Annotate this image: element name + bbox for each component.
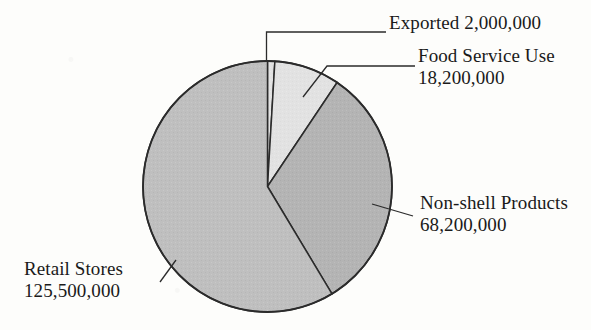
pie-slice-group bbox=[143, 61, 392, 312]
label-retail-stores-value: 125,500,000 bbox=[24, 280, 123, 302]
label-non-shell-value: 68,200,000 bbox=[420, 214, 568, 236]
label-retail-stores-name: Retail Stores bbox=[24, 258, 123, 280]
label-food-service-value: 18,200,000 bbox=[418, 67, 555, 89]
leader-line-exported bbox=[267, 32, 387, 62]
label-exported-text: Exported 2,000,000 bbox=[389, 12, 541, 34]
label-retail-stores: Retail Stores 125,500,000 bbox=[24, 258, 123, 303]
pie-chart: Exported 2,000,000 Food Service Use 18,2… bbox=[0, 0, 591, 330]
label-non-shell-name: Non-shell Products bbox=[420, 192, 568, 214]
label-food-service: Food Service Use 18,200,000 bbox=[418, 45, 555, 90]
label-exported: Exported 2,000,000 bbox=[389, 12, 541, 34]
label-non-shell: Non-shell Products 68,200,000 bbox=[420, 192, 568, 237]
label-food-service-name: Food Service Use bbox=[418, 45, 555, 67]
